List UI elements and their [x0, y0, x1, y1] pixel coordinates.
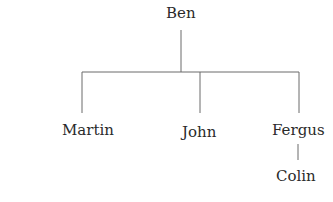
family-tree-diagram: Ben Martin John Fergus Colin: [0, 0, 333, 202]
node-fergus: Fergus: [272, 121, 325, 139]
node-ben: Ben: [166, 4, 196, 22]
node-martin: Martin: [62, 121, 114, 139]
node-john: John: [182, 123, 216, 141]
node-colin: Colin: [276, 167, 316, 185]
